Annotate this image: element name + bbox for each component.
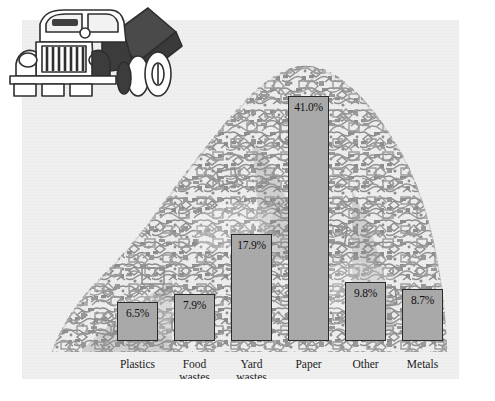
category-label-other: Other bbox=[333, 358, 398, 371]
bar-other: 9.8% bbox=[345, 282, 386, 341]
bar-value-label: 8.7% bbox=[403, 294, 442, 306]
bar-value-label: 41.0% bbox=[289, 101, 328, 113]
bar-metals: 8.7% bbox=[402, 289, 443, 341]
bar-paper: 41.0% bbox=[288, 96, 329, 341]
category-label-food-wastes: Food wastes bbox=[162, 358, 227, 379]
bar-value-label: 6.5% bbox=[118, 307, 157, 319]
bar-food-wastes: 7.9% bbox=[174, 294, 215, 341]
category-label-metals: Metals bbox=[390, 358, 455, 371]
bar-value-label: 17.9% bbox=[232, 239, 271, 251]
category-label-plastics: Plastics bbox=[105, 358, 170, 371]
category-label-paper: Paper bbox=[276, 358, 341, 371]
category-label-glass: Glass bbox=[447, 358, 459, 371]
bar-plastics: 6.5% bbox=[117, 302, 158, 341]
bar-value-label: 7.9% bbox=[175, 299, 214, 311]
figure-canvas: 6.5% Plastics 7.9% Food wastes 17.9% Yar… bbox=[0, 0, 495, 401]
bar-value-label: 9.8% bbox=[346, 287, 385, 299]
category-label-yard-wastes: Yard wastes bbox=[219, 358, 284, 379]
dump-truck-illustration bbox=[6, 2, 196, 102]
bar-yard-wastes: 17.9% bbox=[231, 234, 272, 341]
